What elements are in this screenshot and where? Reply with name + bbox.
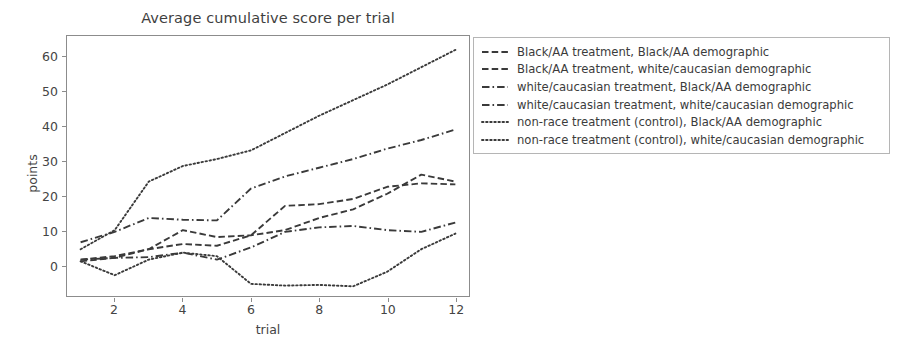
legend-line-sample-icon — [481, 99, 509, 111]
y-axis-tick-mark — [62, 196, 66, 197]
y-axis-tick-label: 0 — [30, 258, 58, 273]
y-axis-tick-mark — [62, 126, 66, 127]
figure-canvas: Average cumulative score per trial 60504… — [0, 0, 904, 348]
y-axis-tick-label: 60 — [30, 48, 58, 63]
y-axis-tick-label: 50 — [30, 83, 58, 98]
y-axis-tick-mark — [62, 161, 66, 162]
x-axis-tick-mark — [114, 298, 115, 302]
series-line — [81, 223, 456, 260]
series-lines — [67, 36, 469, 296]
legend-line-sample-icon — [481, 81, 509, 93]
x-axis-label: trial — [66, 322, 470, 337]
y-axis-tick-label: 10 — [30, 223, 58, 238]
x-axis-tick-mark — [251, 298, 252, 302]
y-axis-tick-label: 40 — [30, 118, 58, 133]
legend-item-label: white/caucasian treatment, white/caucasi… — [517, 99, 854, 111]
series-line — [81, 175, 456, 262]
legend-item[interactable]: Black/AA treatment, Black/AA demographic — [481, 43, 883, 61]
legend-item[interactable]: non-race treatment (control), Black/AA d… — [481, 113, 883, 131]
series-line — [81, 130, 456, 243]
x-axis-tick-mark — [456, 298, 457, 302]
y-axis-label: points — [25, 134, 40, 214]
legend-line-sample-icon — [481, 63, 509, 75]
y-axis-tick-mark — [62, 91, 66, 92]
legend-item-label: white/caucasian treatment, Black/AA demo… — [517, 81, 811, 93]
legend-item[interactable]: white/caucasian treatment, white/caucasi… — [481, 96, 883, 114]
x-axis-tick-labels: 24681012 — [66, 298, 470, 318]
x-axis-tick-label: 2 — [99, 302, 129, 317]
legend-line-sample-icon — [481, 134, 509, 146]
legend-item-label: non-race treatment (control), white/cauc… — [517, 134, 864, 146]
x-axis-tick-label: 4 — [167, 302, 197, 317]
series-line — [81, 234, 456, 287]
legend-item-label: non-race treatment (control), Black/AA d… — [517, 116, 822, 128]
x-axis-tick-label: 8 — [304, 302, 334, 317]
legend-line-sample-icon — [481, 46, 509, 58]
legend-item[interactable]: Black/AA treatment, white/caucasian demo… — [481, 61, 883, 79]
legend: Black/AA treatment, Black/AA demographic… — [473, 37, 890, 154]
legend-item[interactable]: non-race treatment (control), white/cauc… — [481, 131, 883, 149]
x-axis-tick-mark — [182, 298, 183, 302]
y-axis-tick-mark — [62, 266, 66, 267]
page-title: Average cumulative score per trial — [66, 10, 470, 26]
x-axis-tick-mark — [319, 298, 320, 302]
x-axis-tick-label: 12 — [441, 302, 471, 317]
y-axis-tick-mark — [62, 231, 66, 232]
x-axis-tick-label: 10 — [373, 302, 403, 317]
legend-line-sample-icon — [481, 116, 509, 128]
plot-area — [66, 35, 470, 297]
legend-item[interactable]: white/caucasian treatment, Black/AA demo… — [481, 78, 883, 96]
x-axis-tick-label: 6 — [236, 302, 266, 317]
legend-item-label: Black/AA treatment, Black/AA demographic — [517, 46, 769, 58]
x-axis-tick-mark — [388, 298, 389, 302]
series-line — [81, 50, 456, 249]
legend-item-label: Black/AA treatment, white/caucasian demo… — [517, 63, 811, 75]
series-line — [81, 183, 456, 259]
y-axis-tick-mark — [62, 56, 66, 57]
